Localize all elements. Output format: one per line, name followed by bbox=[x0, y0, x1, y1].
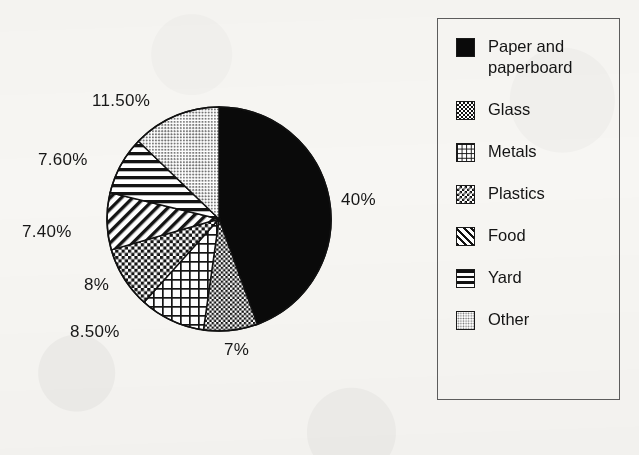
legend-swatch-paper-and-paperboard bbox=[456, 38, 475, 57]
legend-label-plastics: Plastics bbox=[488, 183, 545, 204]
legend-swatch-yard bbox=[456, 269, 475, 288]
pie-label-metals: 8.50% bbox=[70, 322, 120, 342]
legend-label-food: Food bbox=[488, 225, 526, 246]
legend-item-yard[interactable]: Yard bbox=[456, 267, 611, 288]
legend-item-other[interactable]: Other bbox=[456, 309, 611, 330]
pie-label-food: 7.40% bbox=[22, 222, 72, 242]
legend-label-yard: Yard bbox=[488, 267, 522, 288]
legend-item-glass[interactable]: Glass bbox=[456, 99, 611, 120]
legend-label-paper-and-paperboard: Paper and paperboard bbox=[488, 36, 611, 78]
legend: Paper and paperboardGlassMetalsPlasticsF… bbox=[437, 18, 620, 400]
legend-item-paper-and-paperboard[interactable]: Paper and paperboard bbox=[456, 36, 611, 78]
pie-label-plastics: 8% bbox=[84, 275, 109, 295]
legend-item-metals[interactable]: Metals bbox=[456, 141, 611, 162]
pie-chart-area: 40%7%8.50%8%7.40%7.60%11.50% bbox=[0, 0, 430, 455]
legend-item-food[interactable]: Food bbox=[456, 225, 611, 246]
pie-label-other: 11.50% bbox=[92, 91, 150, 111]
pie-slices bbox=[107, 107, 331, 331]
pie-label-glass: 7% bbox=[224, 340, 249, 360]
legend-swatch-plastics bbox=[456, 185, 475, 204]
legend-swatch-metals bbox=[456, 143, 475, 162]
legend-item-plastics[interactable]: Plastics bbox=[456, 183, 611, 204]
legend-label-glass: Glass bbox=[488, 99, 530, 120]
legend-swatch-glass bbox=[456, 101, 475, 120]
pie-label-paper-and-paperboard: 40% bbox=[341, 190, 376, 210]
legend-items: Paper and paperboardGlassMetalsPlasticsF… bbox=[456, 36, 611, 330]
pie-label-yard: 7.60% bbox=[38, 150, 88, 170]
legend-label-metals: Metals bbox=[488, 141, 537, 162]
legend-swatch-other bbox=[456, 311, 475, 330]
legend-swatch-food bbox=[456, 227, 475, 246]
legend-label-other: Other bbox=[488, 309, 529, 330]
